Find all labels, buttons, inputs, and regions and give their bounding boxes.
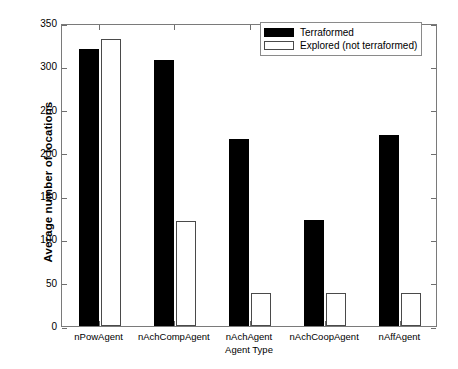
- y-tick-mark: [62, 154, 67, 155]
- bar-explored: [401, 293, 421, 326]
- bar-terraformed: [379, 135, 399, 326]
- x-tick-label: nAffAgent: [379, 331, 421, 342]
- x-tick-mark-top: [174, 25, 175, 30]
- x-tick-label: nAchCoopAgent: [290, 331, 359, 342]
- y-tick-label: 300: [40, 61, 57, 72]
- y-tick-mark: [62, 68, 67, 69]
- y-tick-mark: [62, 25, 67, 26]
- y-tick-label: 200: [40, 148, 57, 159]
- y-tick-label: 150: [40, 191, 57, 202]
- y-tick-mark-right: [431, 154, 436, 155]
- y-tick-mark: [62, 111, 67, 112]
- bar-explored: [326, 293, 346, 326]
- y-tick-mark: [62, 241, 67, 242]
- bar-terraformed: [304, 220, 324, 326]
- x-tick-mark-top: [250, 25, 251, 30]
- bar-explored: [101, 39, 121, 326]
- plot-area: 050100150200250300350: [61, 24, 437, 327]
- y-axis-title: Average number of locations: [42, 52, 54, 312]
- bar-terraformed: [79, 49, 99, 326]
- x-tick-mark-top: [99, 25, 100, 30]
- x-tick-label: nAchCompAgent: [138, 331, 210, 342]
- y-tick-mark: [62, 284, 67, 285]
- y-tick-label: 0: [51, 321, 57, 332]
- y-tick-label: 100: [40, 234, 57, 245]
- bar-terraformed: [154, 60, 174, 326]
- bar-explored: [251, 293, 271, 326]
- bar-explored: [176, 221, 196, 326]
- y-tick-label: 50: [46, 278, 57, 289]
- legend-item-terraformed: Terraformed: [264, 26, 417, 39]
- y-tick-mark-right: [431, 284, 436, 285]
- y-tick-mark-right: [431, 198, 436, 199]
- legend-label-explored: Explored (not terraformed): [300, 40, 417, 51]
- y-tick-mark-right: [431, 25, 436, 26]
- x-axis-title: Agent Type: [61, 344, 437, 355]
- y-tick-label: 350: [40, 18, 57, 29]
- legend-swatch-terraformed: [264, 28, 294, 37]
- legend-label-terraformed: Terraformed: [300, 27, 354, 38]
- figure-canvas: Average number of locations 050100150200…: [0, 0, 458, 369]
- y-tick-label: 250: [40, 105, 57, 116]
- chart-legend: Terraformed Explored (not terraformed): [260, 22, 422, 56]
- y-tick-mark-right: [431, 111, 436, 112]
- y-tick-mark-right: [431, 241, 436, 242]
- y-tick-mark: [62, 328, 67, 329]
- x-tick-label: nAchAgent: [226, 331, 272, 342]
- bar-terraformed: [229, 139, 249, 326]
- legend-item-explored: Explored (not terraformed): [264, 39, 417, 52]
- legend-swatch-explored: [264, 41, 294, 50]
- y-tick-mark-right: [431, 328, 436, 329]
- x-tick-label: nPowAgent: [74, 331, 123, 342]
- y-tick-mark: [62, 198, 67, 199]
- y-tick-mark-right: [431, 68, 436, 69]
